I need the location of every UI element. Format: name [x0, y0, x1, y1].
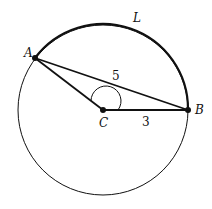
point-C	[100, 107, 106, 113]
label-L: L	[133, 12, 141, 24]
label-chord-length: 5	[112, 70, 120, 82]
circle-diagram: A B C L 5 3	[0, 0, 212, 209]
chord-AB	[35, 58, 188, 110]
label-B: B	[195, 104, 204, 116]
radius-CA	[35, 58, 103, 110]
diagram-canvas	[0, 0, 212, 209]
label-A: A	[24, 47, 33, 59]
label-radius-length: 3	[142, 116, 150, 128]
angle-arc-ACB	[91, 86, 121, 110]
arc-L	[35, 24, 188, 110]
label-C: C	[99, 117, 108, 129]
point-B	[185, 107, 191, 113]
